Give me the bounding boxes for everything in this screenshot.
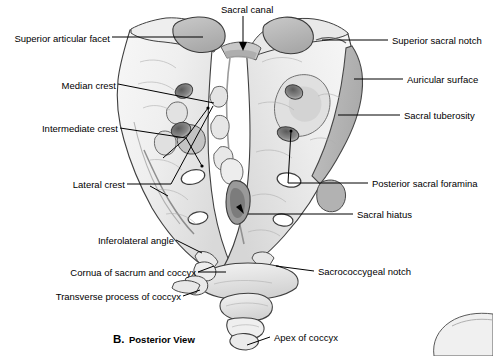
label-auricular-surface-text: Auricular surface [407,74,478,85]
median-crest-tubercle-1 [210,86,228,107]
figure-caption-letter: B. [113,333,125,345]
label-superior-articular-facet: Superior articular facet [8,33,110,44]
label-apex-of-coccyx: Apex of coccyx [274,332,338,343]
label-median-crest-text: Median crest [62,80,116,91]
label-posterior-sacral-foramina: Posterior sacral foramina [372,178,478,189]
sacral-canal-shadow [224,50,257,60]
label-sacrococcygeal-notch: Sacrococcygeal notch [318,266,411,277]
label-transverse-process-of-coccyx-text: Transverse process of coccyx [56,291,181,302]
label-sacral-canal-text: Sacral canal [221,4,273,15]
label-median-crest: Median crest [34,80,116,91]
figure-caption-text: Posterior View [129,334,195,345]
figure-root: Sacral canal Superior articular facet Me… [0,0,493,356]
leader-dot-intermediate-a [206,106,209,109]
label-intermediate-crest: Intermediate crest [24,123,118,134]
intermediate-crest-tubercle-a [166,102,187,124]
label-cornua-of-sacrum-and-coccyx: Cornua of sacrum and coccyx [41,267,196,278]
label-lateral-crest: Lateral crest [47,179,125,190]
label-posterior-sacral-foramina-text: Posterior sacral foramina [372,178,478,189]
label-auricular-surface: Auricular surface [407,74,478,85]
label-cornua-of-sacrum-and-coccyx-text: Cornua of sacrum and coccyx [70,267,196,278]
auricular-surface-lobe [317,180,346,212]
label-sacral-tuberosity-text: Sacral tuberosity [404,110,475,121]
label-inferolateral-angle: Inferolateral angle [66,235,174,246]
label-lateral-crest-text: Lateral crest [73,179,125,190]
label-superior-sacral-notch-text: Superior sacral notch [392,35,482,46]
label-apex-of-coccyx-text: Apex of coccyx [274,332,338,343]
label-sacrococcygeal-notch-text: Sacrococcygeal notch [318,266,411,277]
label-superior-sacral-notch: Superior sacral notch [392,35,482,46]
label-sacral-tuberosity: Sacral tuberosity [404,110,475,121]
figure-caption: B. Posterior View [113,329,195,347]
label-transverse-process-of-coccyx: Transverse process of coccyx [21,291,181,302]
leader-dot-foramen [290,130,293,133]
coccyx-apex [230,334,258,350]
label-superior-articular-facet-text: Superior articular facet [14,33,110,44]
label-sacral-canal: Sacral canal [221,4,273,15]
label-intermediate-crest-text: Intermediate crest [42,123,118,134]
label-inferolateral-angle-text: Inferolateral angle [98,235,174,246]
coccyx-co2 [220,293,272,321]
median-crest-tubercle-2 [211,115,229,139]
leader-dot-intermediate-b [200,164,203,167]
label-sacral-hiatus-text: Sacral hiatus [357,209,412,220]
label-sacral-hiatus: Sacral hiatus [357,209,412,220]
